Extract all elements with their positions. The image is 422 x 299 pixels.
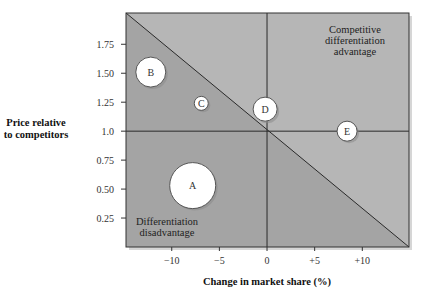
y-tick-label: 1.25 <box>97 97 115 108</box>
y-tick-label: 0.50 <box>97 184 115 195</box>
y-axis-title: to competitors <box>4 129 68 140</box>
x-tick-label: −5 <box>214 255 225 266</box>
bubble-chart: 0.250.500.751.01.251.501.75−10−50+5+10Ch… <box>0 0 422 299</box>
y-tick-label: 0.75 <box>97 155 115 166</box>
region-label-upper-right: Competitive <box>329 24 381 35</box>
y-axis-title: Price relative <box>6 117 66 128</box>
region-label-upper-right: advantage <box>334 46 377 57</box>
region-label-upper-right: differentiation <box>325 35 386 46</box>
x-tick-label: +5 <box>309 255 320 266</box>
x-tick-label: 0 <box>265 255 270 266</box>
bubble-label: B <box>147 67 154 78</box>
x-axis-title: Change in market share (%) <box>203 276 332 288</box>
bubble-label: C <box>198 98 205 109</box>
x-tick-label: +10 <box>354 255 370 266</box>
region-label-lower-left: disadvantage <box>140 227 195 238</box>
bubble-label: E <box>344 126 350 137</box>
bubble-label: A <box>189 180 197 191</box>
bubble-label: D <box>262 104 269 115</box>
x-tick-label: −10 <box>164 255 180 266</box>
y-tick-label: 1.75 <box>97 39 115 50</box>
y-tick-label: 1.0 <box>102 126 115 137</box>
y-tick-label: 0.25 <box>97 213 115 224</box>
y-tick-label: 1.50 <box>97 68 115 79</box>
region-label-lower-left: Differentiation <box>136 216 199 227</box>
